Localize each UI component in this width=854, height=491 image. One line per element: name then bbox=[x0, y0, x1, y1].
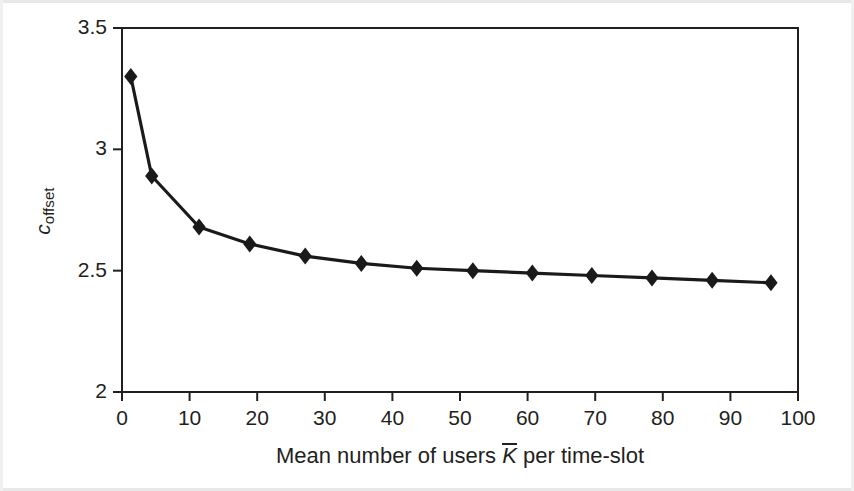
data-point-marker bbox=[243, 235, 256, 252]
y-axis-label: coffset bbox=[31, 146, 57, 276]
y-tick-label: 2 bbox=[27, 379, 107, 403]
data-point-marker bbox=[355, 255, 368, 272]
data-point-marker bbox=[410, 260, 423, 277]
y-axis-label-var: c bbox=[31, 224, 54, 235]
y-axis-label-wrapper: coffset bbox=[6, 160, 136, 260]
x-axis-label-prefix: Mean number of users bbox=[276, 443, 502, 468]
y-tick-label: 2.5 bbox=[27, 258, 107, 282]
data-point-marker bbox=[764, 274, 777, 291]
y-axis-label-subscript: offset bbox=[40, 188, 57, 225]
data-point-marker bbox=[585, 267, 598, 284]
x-axis-ticks bbox=[122, 392, 798, 401]
data-point-marker bbox=[124, 68, 137, 85]
x-axis-label-var: K bbox=[502, 443, 517, 467]
data-line bbox=[131, 77, 771, 283]
line-chart: coffset Mean number of users K per time-… bbox=[0, 0, 854, 491]
x-axis-label: Mean number of users K per time-slot bbox=[122, 443, 798, 469]
data-point-marker bbox=[526, 265, 539, 282]
axis-frame bbox=[122, 28, 798, 392]
x-axis-label-suffix: per time-slot bbox=[517, 443, 644, 468]
data-point-marker bbox=[299, 248, 312, 265]
figure-page: coffset Mean number of users K per time-… bbox=[0, 0, 854, 491]
data-point-marker bbox=[466, 262, 479, 279]
y-tick-label: 3.5 bbox=[27, 15, 107, 39]
data-point-marker bbox=[645, 269, 658, 286]
x-tick-label: 100 bbox=[758, 406, 838, 430]
data-point-marker bbox=[706, 272, 719, 289]
data-markers bbox=[124, 68, 777, 291]
y-tick-label: 3 bbox=[27, 136, 107, 160]
